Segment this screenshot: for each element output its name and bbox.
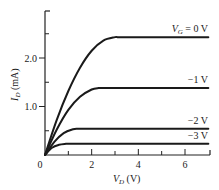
x-axis-title: VD (V) xyxy=(113,173,141,186)
curve-label: −1 V xyxy=(188,74,209,85)
x-tick-label: 4 xyxy=(136,159,141,170)
curve-label: −2 V xyxy=(188,115,209,126)
y-tick-label: 2.0 xyxy=(25,53,38,64)
x-tick-label: 2 xyxy=(89,159,94,170)
curve-vg-0 xyxy=(45,37,208,155)
y-axis-title: ID (mA) xyxy=(9,68,22,102)
curve-vg-1-neg xyxy=(45,88,208,155)
jfet-drain-characteristics-chart: 02461.02.0VG = 0 V−1 V−2 V−3 V VD (V) ID… xyxy=(0,0,219,190)
curves xyxy=(45,37,208,155)
y-axis-title-unit: (mA) xyxy=(9,68,21,92)
curve-vg-3-neg xyxy=(45,144,208,155)
curve-label: VG = 0 V xyxy=(172,23,209,36)
x-axis-title-unit: (V) xyxy=(124,173,140,185)
x-tick-label: 0 xyxy=(38,159,43,170)
curve-vg-2-neg xyxy=(45,129,208,155)
curve-label: −3 V xyxy=(188,130,209,141)
y-tick-label: 1.0 xyxy=(25,101,38,112)
x-tick-label: 6 xyxy=(183,159,188,170)
ticks xyxy=(39,34,185,155)
